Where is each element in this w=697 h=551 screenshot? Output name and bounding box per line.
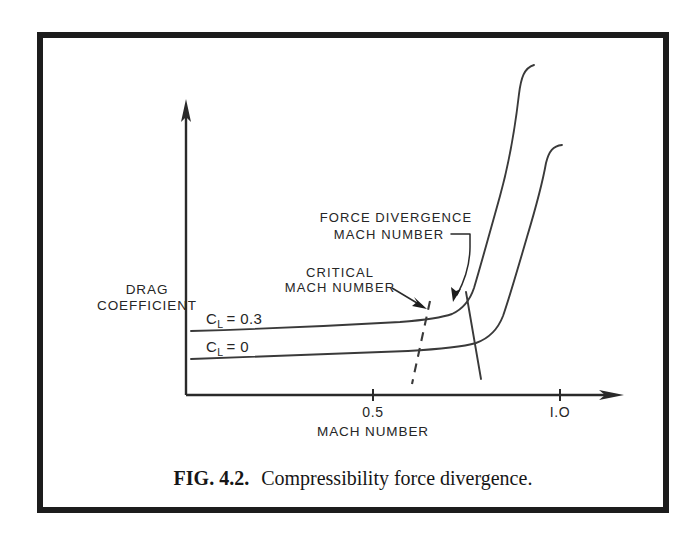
critical-mach-number-label-line2: MACH NUMBER bbox=[285, 280, 395, 295]
curve-label-cl-0.3-prefix: C bbox=[206, 310, 217, 327]
curve-label-cl-0.3: CL= 0.3 bbox=[206, 310, 262, 330]
force-divergence-mach-number-line bbox=[466, 292, 481, 379]
figure-caption-label: FIG. 4.2. bbox=[174, 467, 250, 489]
figure-container: 0.5 I.O MACH NUMBER DRAG COEFFICIENT CL=… bbox=[0, 0, 697, 551]
curve-label-cl-0: CL= 0 bbox=[206, 338, 249, 358]
figure-caption: FIG. 4.2.Compressibility force divergenc… bbox=[174, 467, 533, 490]
critical-mach-number-leader-arrowhead bbox=[412, 297, 427, 309]
y-axis-title-line1: DRAG bbox=[126, 282, 169, 297]
curve-label-cl-0.3-subscript: L bbox=[217, 318, 223, 330]
force-divergence-mach-number-leader bbox=[451, 234, 470, 295]
force-divergence-mach-number-label-line2: MACH NUMBER bbox=[334, 227, 444, 242]
figure-caption-text: Compressibility force divergence. bbox=[261, 467, 532, 490]
x-tick-label-1.0: I.O bbox=[550, 404, 570, 420]
critical-mach-number-line bbox=[412, 301, 430, 384]
curve-label-cl-0-value: = 0 bbox=[226, 338, 248, 355]
compressibility-force-divergence-figure: 0.5 I.O MACH NUMBER DRAG COEFFICIENT CL=… bbox=[0, 0, 697, 551]
curve-label-cl-0-subscript: L bbox=[217, 346, 223, 358]
x-axis-title: MACH NUMBER bbox=[317, 424, 429, 439]
curve-label-cl-0-prefix: C bbox=[206, 338, 217, 355]
curve-label-cl-0.3-value: = 0.3 bbox=[226, 310, 262, 327]
annotation-critical-mach-number: CRITICAL MACH NUMBER bbox=[285, 265, 427, 309]
y-axis-title-line2: COEFFICIENT bbox=[97, 298, 197, 313]
critical-mach-number-label-line1: CRITICAL bbox=[306, 265, 374, 280]
axes-group bbox=[181, 99, 624, 401]
force-divergence-mach-number-label-line1: FORCE DIVERGENCE bbox=[320, 210, 473, 225]
x-tick-label-0.5: 0.5 bbox=[362, 404, 383, 420]
